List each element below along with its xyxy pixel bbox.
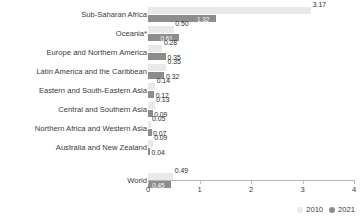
bar-2010 — [148, 26, 174, 33]
bar-value-label: 0.28 — [164, 39, 177, 46]
legend-swatch-icon — [329, 207, 335, 213]
x-axis-tick-label: 4 — [352, 185, 356, 194]
legend-label: 2010 — [306, 205, 323, 214]
bar-chart: Sub-Saharan Africa3.171.32Oceania*0.500.… — [0, 0, 361, 218]
bar-group: 0.140.12 — [148, 82, 361, 101]
x-axis-tick — [303, 180, 304, 184]
category-label: Eastern and South-Eastern Asia — [1, 86, 147, 95]
bar-group: 0.050.07 — [148, 120, 361, 139]
bar-2010 — [148, 83, 155, 90]
x-axis-tick-label: 1 — [197, 185, 201, 194]
category-label: Central and Southern Asia — [1, 105, 147, 114]
bar-2021 — [148, 148, 150, 155]
bar-group: 0.350.32 — [148, 63, 361, 82]
bar-2010 — [148, 64, 166, 71]
bar-value-label: 0.13 — [156, 96, 169, 103]
bar-value-label: 0.49 — [175, 167, 188, 174]
category-label: Australia and New Zealand — [1, 143, 147, 152]
chart-row: Central and Southern Asia0.130.09 — [0, 101, 361, 120]
category-label: World — [1, 176, 147, 185]
bar-value-label: 0.04 — [152, 149, 165, 156]
x-axis-tick — [200, 180, 201, 184]
bar-2010 — [148, 121, 151, 128]
chart-row: Eastern and South-Eastern Asia0.140.12 — [0, 82, 361, 101]
x-axis-tick-label: 3 — [300, 185, 304, 194]
category-label: Europe and Northern America — [1, 48, 147, 57]
chart-row: Oceania*0.500.61 — [0, 25, 361, 44]
bar-group: 0.500.61 — [148, 25, 361, 44]
plot-area: Sub-Saharan Africa3.171.32Oceania*0.500.… — [0, 4, 361, 176]
bar-2021 — [148, 129, 152, 136]
chart-legend: 20102021 — [297, 205, 355, 214]
legend-item-2021[interactable]: 2021 — [329, 205, 355, 214]
bar-2021 — [148, 91, 154, 98]
x-axis-tick-label: 0 — [146, 185, 150, 194]
bar-2010 — [148, 102, 155, 109]
legend-swatch-icon — [297, 207, 303, 213]
bar-2010 — [148, 45, 162, 52]
x-axis-tick-label: 2 — [249, 185, 253, 194]
bar-2010 — [148, 7, 311, 14]
bar-value-label: 1.32 — [197, 16, 209, 23]
bar-group: 0.490.45 — [148, 172, 361, 191]
bar-group: 0.090.04 — [148, 139, 361, 158]
bar-value-label: 0.05 — [152, 115, 165, 122]
category-label: Oceania* — [1, 29, 147, 38]
x-axis-tick — [251, 180, 252, 184]
bar-group: 0.130.09 — [148, 101, 361, 120]
x-axis: 01234 — [148, 180, 354, 181]
category-label: Sub-Saharan Africa — [1, 10, 147, 19]
chart-row: Northern Africa and Western Asia0.050.07 — [0, 120, 361, 139]
bar-2010 — [148, 173, 173, 180]
bar-value-label: 0.45 — [152, 182, 164, 189]
bar-value-label: 0.14 — [157, 77, 170, 84]
chart-row: World0.490.45 — [0, 172, 361, 191]
bar-value-label: 3.17 — [313, 1, 326, 8]
bar-2021 — [148, 53, 166, 60]
legend-item-2010[interactable]: 2010 — [297, 205, 323, 214]
category-label: Northern Africa and Western Asia — [1, 124, 147, 133]
bar-2010 — [148, 140, 153, 147]
chart-row: Latin America and the Caribbean0.350.32 — [0, 63, 361, 82]
bar-value-label: 0.50 — [175, 20, 188, 27]
bar-value-label: 0.09 — [154, 134, 167, 141]
bar-value-label: 0.35 — [168, 58, 181, 65]
x-axis-tick — [354, 180, 355, 184]
category-label: Latin America and the Caribbean — [1, 67, 147, 76]
x-axis-tick — [148, 180, 149, 184]
legend-label: 2021 — [338, 205, 355, 214]
chart-row: Australia and New Zealand0.090.04 — [0, 139, 361, 158]
